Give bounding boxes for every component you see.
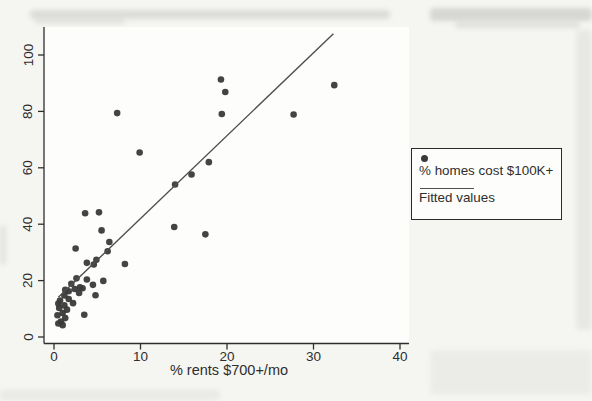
data-point [98,227,105,234]
data-point [90,261,97,268]
legend-box: % homes cost $100K+ Fitted values [411,148,562,220]
y-tick-label: 100 [21,44,36,67]
scatter-marker-icon [421,155,428,162]
y-tick-label: 20 [21,273,36,288]
data-point [68,280,75,287]
plot-background [44,27,409,344]
data-point [136,149,143,156]
data-point [114,110,121,117]
data-point [96,209,103,216]
x-tick-label: 40 [392,349,407,364]
x-tick-label: 30 [306,349,321,364]
data-point [59,322,66,329]
data-point [84,276,91,283]
legend-entry-fitted: Fitted values [419,188,561,205]
data-point [219,111,226,118]
data-point [70,300,77,307]
data-point [90,282,97,289]
data-point [55,300,62,307]
data-point [202,231,209,238]
data-point [54,312,61,319]
data-point [82,210,89,217]
data-point [331,82,338,89]
data-point [206,159,213,166]
data-point [104,248,111,255]
data-point [84,260,91,267]
x-tick-label: 20 [219,349,234,364]
legend-entry-scatter: % homes cost $100K+ [419,155,561,178]
y-tick-label: 60 [21,160,36,175]
legend-label-fitted: Fitted values [419,191,561,205]
data-point [92,292,99,299]
data-point [218,76,225,83]
x-tick-label: 10 [133,349,148,364]
y-tick-label: 0 [21,333,36,341]
y-tick-label: 80 [21,104,36,119]
data-point [106,239,113,246]
data-point [79,285,86,292]
x-tick-label: 0 [50,349,58,364]
data-point [290,111,297,118]
data-point [171,224,178,231]
x-axis-title: % rents $700+/mo [170,362,288,378]
y-tick-label: 40 [21,217,36,232]
data-point [81,311,88,318]
fitted-line-sample-icon [420,188,474,189]
data-point [72,245,79,252]
data-point [222,89,229,96]
legend-label-scatter: % homes cost $100K+ [419,164,561,178]
scanned-chart-page: % rents $700+/mo 020406080100010203040 %… [0,0,592,401]
data-point [122,261,129,268]
data-point [100,278,107,285]
